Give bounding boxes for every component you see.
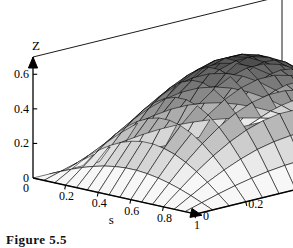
- s-axis-title: s: [109, 212, 114, 227]
- z-tick-label-0: 0.6: [14, 67, 29, 81]
- figure-caption: Figure 5.5: [6, 232, 67, 248]
- s-tick-label-4: 0.8: [157, 211, 172, 225]
- t-tick-label-1: 0.2: [248, 197, 263, 211]
- t-tick-label-0: 0: [203, 209, 209, 223]
- s-tick-label-3: 0.6: [124, 204, 139, 218]
- z-axis-title: Z: [32, 38, 40, 53]
- s-tick-label-0: 0: [23, 181, 29, 195]
- s-tick-label-2: 0.4: [92, 196, 107, 210]
- s-tick-label-1: 0.2: [59, 189, 74, 203]
- z-tick-label-2: 0.2: [14, 136, 29, 150]
- s-tick-label-5: 1: [194, 218, 200, 232]
- z-tick-label-1: 0.4: [14, 102, 29, 116]
